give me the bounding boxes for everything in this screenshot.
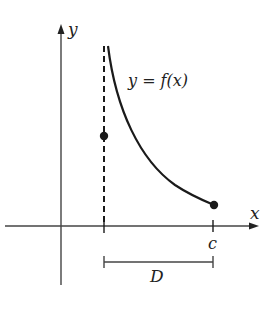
y-axis-arrow-icon [58, 24, 65, 34]
x-axis-label: x [250, 203, 260, 223]
domain-label: D [149, 266, 164, 286]
function-diagram: y x y = f(x) c D [0, 0, 274, 311]
c-label: c [208, 234, 217, 253]
x-axis [5, 223, 259, 230]
x-axis-arrow-icon [249, 223, 259, 230]
endpoint-at-c [210, 201, 218, 209]
isolated-point [100, 132, 108, 140]
y-axis-label: y [67, 19, 78, 39]
curve-label: y = f(x) [127, 71, 188, 90]
y-axis [58, 24, 65, 285]
curve-f [108, 46, 214, 205]
